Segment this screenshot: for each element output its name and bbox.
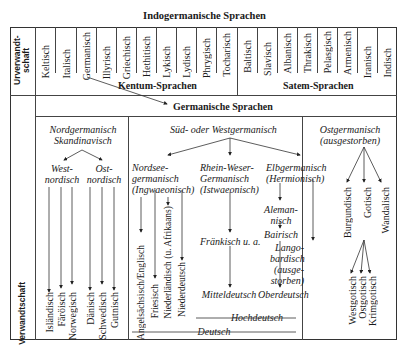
elbgermanisch-label: Elbgermanisch(Hermionisch): [266, 162, 326, 184]
lang-gutnisch: Gutnisch: [109, 292, 120, 328]
east-nordic-label: Ost-nordisch: [84, 163, 124, 185]
lang-lydisch: Lydisch: [181, 46, 192, 78]
lang-griechisch: Griechisch: [121, 36, 132, 79]
lang-islaendisch: Isländisch: [44, 292, 55, 333]
lang-indisch: Indisch: [382, 48, 393, 77]
row-label-verwandtschaft: Verwandtschaft: [17, 282, 27, 345]
langobardisch-label: Lango-bardisch(ausge-storben): [270, 242, 304, 286]
lang-wandalisch: Wandalisch: [380, 187, 391, 233]
lang-gotisch: Gotisch: [362, 187, 373, 218]
col-divider: [116, 27, 117, 73]
lang-niederdeutsch: Niederdeutsch: [177, 262, 187, 317]
lang-burgundisch: Burgundisch: [342, 187, 353, 238]
col-divider: [297, 27, 298, 73]
col-divider: [96, 27, 97, 73]
nordsee-label: Nordsee-germanisch(Ingwaeonisch): [132, 162, 198, 195]
col-divider: [377, 27, 378, 73]
group-kentum: Kentum-Sprachen: [118, 80, 197, 91]
lang-keltisch: Keltisch: [40, 45, 51, 78]
deutsch-label: Deutsch: [196, 326, 232, 337]
col-divider: [55, 27, 56, 73]
lang-lykisch: Lykisch: [161, 46, 172, 78]
hochdeutsch-label: Hochdeutsch: [222, 312, 292, 323]
lang-daenisch: Dänisch: [85, 292, 96, 325]
col-divider: [216, 27, 217, 73]
west-east-divider: [302, 116, 303, 340]
col-divider: [337, 27, 338, 73]
lang-armenisch: Armenisch: [342, 31, 353, 75]
rhein-weser-label: Rhein-Weser-Germanisch(Istwaeonisch): [200, 162, 264, 195]
north-germanic-title: NordgermanischSkandinavisch: [40, 124, 126, 146]
lang-thrakisch: Thrakisch: [302, 33, 313, 73]
lang-baltisch: Baltisch: [242, 40, 253, 73]
lang-hethitisch: Hethitisch: [141, 36, 152, 77]
group-germanic: Germanische Sprachen: [173, 101, 273, 112]
col-divider: [257, 27, 258, 73]
group-satem: Satem-Sprachen: [283, 80, 354, 91]
lang-germanisch: Germanisch: [81, 32, 92, 80]
west-nordic-label: West-nordisch: [42, 163, 82, 185]
lang-albanisch: Albanisch: [282, 33, 293, 74]
col-divider: [357, 27, 358, 73]
kentum-satem-divider: [237, 27, 238, 95]
lang-niederlaendisch: Niederländisch (u. Afrikaans): [163, 206, 173, 319]
alemannisch-label: Aleman-nisch: [262, 204, 300, 226]
west-germanic-title: Süd- oder Westgermanisch: [170, 124, 270, 135]
north-west-divider: [128, 116, 129, 340]
col-divider: [76, 27, 77, 73]
lang-tocharisch: Tocharisch: [221, 33, 232, 77]
col-divider: [277, 27, 278, 73]
lang-friesisch: Friesisch: [150, 284, 160, 318]
lang-phrygisch: Phrygisch: [201, 38, 212, 78]
lang-illyrisch: Illyrisch: [101, 46, 112, 79]
east-germanic-title: Ostgermanisch(ausgestorben): [304, 124, 396, 146]
lang-englisch: Angelsächsisch/Englisch: [136, 245, 146, 340]
fraenkisch-label: Fränkisch u. a.: [200, 236, 260, 247]
mitteldeutsch-label: Mitteldeutsch: [200, 289, 258, 300]
label-column-divider: [35, 27, 36, 340]
oberdeutsch-label: Oberdeutsch: [258, 289, 306, 300]
row-divider-indo: [10, 95, 397, 96]
lang-italisch: Italisch: [61, 49, 72, 78]
diagram-title: Indogermanische Sprachen: [0, 10, 409, 21]
lang-pelasgisch: Pelasgisch: [322, 31, 333, 73]
col-divider: [196, 27, 197, 73]
lang-iranisch: Iranisch: [362, 46, 373, 78]
row-divider-germanic: [35, 116, 397, 117]
lang-norwegisch: Norwegisch: [67, 292, 78, 340]
col-divider: [136, 27, 137, 73]
bairisch-label: Bairisch: [262, 229, 300, 240]
row-label-urverwandtschaft: Urverwandt-schaft: [13, 31, 31, 89]
lang-faeroeisch: Färöisch: [56, 292, 67, 326]
col-divider: [156, 27, 157, 73]
lang-schwedisch: Schwedisch: [97, 292, 108, 340]
lang-krimgotisch: Krimgotisch: [367, 276, 378, 326]
col-divider: [176, 27, 177, 73]
lang-slavisch: Slavisch: [262, 42, 273, 76]
col-divider: [317, 27, 318, 73]
